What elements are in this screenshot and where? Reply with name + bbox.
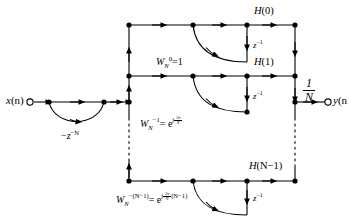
diagram-canvas <box>0 0 349 221</box>
h1-label: H(1) <box>254 57 274 68</box>
comb-gain-label: −z−N <box>61 130 79 141</box>
row-1-path <box>129 76 295 112</box>
coefficient-label-row-0: WN0=1 <box>156 56 183 70</box>
coefficient-label-row-n-1: WN−(N−1)= ej2πN(N−1) <box>116 192 187 207</box>
input-label: x(n) <box>6 95 24 106</box>
h0-label: H(0) <box>254 6 274 17</box>
coefficient-label-row-1: WN−1= ej2πN <box>140 116 182 131</box>
delay-label-row-0: z−1 <box>253 40 263 50</box>
signal-flow-diagram: x(n) y(n 1N −z−N H(0) H(1) H(N−1) z−1 z−… <box>0 0 349 221</box>
hn1-label: H(N−1) <box>249 161 282 172</box>
input-branch <box>34 102 129 122</box>
delay-label-row-n-1: z−1 <box>253 193 263 203</box>
output-label: y(n <box>333 95 347 106</box>
output-gain-label: 1N <box>303 77 315 104</box>
delay-label-row-1: z−1 <box>253 91 263 101</box>
